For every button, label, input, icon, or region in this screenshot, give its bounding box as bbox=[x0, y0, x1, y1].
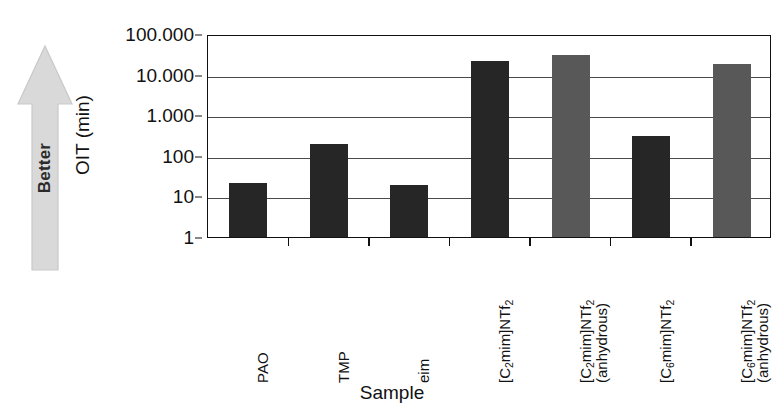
y-tick-label: 1.000 bbox=[146, 105, 194, 127]
x-category-label-line1: [C6mim]NTf2 bbox=[658, 300, 674, 383]
y-tick-mark bbox=[195, 35, 202, 36]
x-category-label: PAO bbox=[255, 243, 277, 383]
x-axis-title: Sample bbox=[0, 382, 784, 404]
y-axis-title: OIT (min) bbox=[66, 60, 100, 210]
bar bbox=[310, 144, 348, 237]
x-category-label-line2: (anhydrous) bbox=[755, 303, 771, 383]
x-category-label-line1: [C2mim]NTf2 bbox=[497, 300, 513, 383]
x-category-label: [C6mim]NTf2(anhydrous) bbox=[739, 243, 761, 383]
y-tick-mark bbox=[195, 156, 202, 157]
y-tick-label: 100 bbox=[162, 146, 194, 168]
x-category-label-line1: [C6mim]NTf2 bbox=[739, 300, 755, 383]
bar bbox=[552, 55, 590, 237]
x-category-label-line1: eim bbox=[416, 359, 432, 383]
x-category-label-line1: PAO bbox=[255, 352, 271, 383]
y-tick-mark bbox=[195, 75, 202, 76]
x-category-label-line1: TMP bbox=[336, 351, 352, 383]
x-category-label-line2: (anhydrous) bbox=[594, 303, 610, 383]
bar bbox=[632, 136, 670, 237]
y-tick-label: 10.000 bbox=[136, 65, 194, 87]
bar bbox=[471, 61, 509, 237]
y-tick-label: 1 bbox=[183, 227, 194, 249]
x-category-label: TMP bbox=[336, 243, 358, 383]
x-axis-category-labels: PAOTMPeim[C2mim]NTf2[C2mim]NTf2(anhydrou… bbox=[207, 243, 771, 383]
x-category-label: [C2mim]NTf2 bbox=[497, 243, 519, 383]
bar bbox=[390, 185, 428, 237]
y-axis-ticks: 100.00010.0001.000100101 bbox=[96, 0, 202, 415]
y-axis-title-text: OIT (min) bbox=[72, 95, 94, 175]
bar bbox=[713, 64, 751, 237]
bar bbox=[229, 183, 267, 238]
y-tick-mark bbox=[195, 197, 202, 198]
y-tick-mark bbox=[195, 116, 202, 117]
chart-root: Better OIT (min) 100.00010.0001.00010010… bbox=[0, 0, 784, 415]
x-axis-title-text: Sample bbox=[360, 382, 424, 403]
plot-area bbox=[207, 35, 771, 238]
x-category-label: eim bbox=[416, 243, 438, 383]
y-tick-label: 10 bbox=[173, 186, 194, 208]
x-category-label: [C2mim]NTf2(anhydrous) bbox=[578, 243, 600, 383]
x-category-label-line1: [C2mim]NTf2 bbox=[578, 300, 594, 383]
y-tick-mark bbox=[195, 238, 202, 239]
y-tick-label: 100.000 bbox=[125, 24, 194, 46]
bars-layer bbox=[208, 36, 770, 237]
x-category-label: [C6mim]NTf2 bbox=[658, 243, 680, 383]
